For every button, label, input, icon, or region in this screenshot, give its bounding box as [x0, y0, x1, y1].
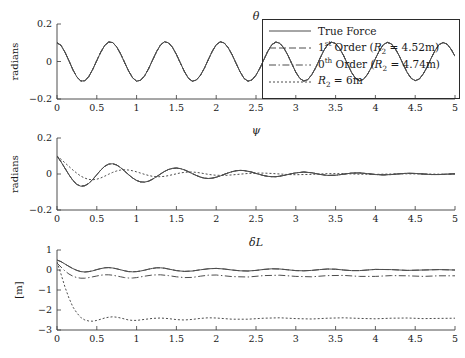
legend: True Force 1st Order (R2 = 4.52m) 0th Or…: [262, 19, 460, 99]
y-tick-label: 0: [46, 168, 52, 179]
x-tick-label: 5: [452, 333, 458, 344]
subplot-delta-l: 00.511.522.533.544.55−3−2−101δL[m]: [0, 230, 465, 358]
x-tick-label: 2: [213, 333, 219, 344]
y-tick-label: −3: [38, 324, 52, 335]
y-tick-label: 0.2: [37, 18, 52, 29]
x-tick-label: 0.5: [89, 213, 104, 224]
legend-item-r2-6m: R2 = 6m: [267, 73, 455, 90]
legend-sample-dashed: [267, 42, 313, 54]
x-tick-label: 4: [372, 213, 378, 224]
x-tick-label: 2.5: [248, 213, 263, 224]
x-tick-label: 3.5: [328, 333, 343, 344]
y-tick-label: 0.2: [37, 132, 52, 143]
x-tick-label: 4.5: [408, 333, 423, 344]
legend-label-r2-6m: R2 = 6m: [318, 74, 363, 89]
x-tick-label: 1.5: [169, 213, 184, 224]
y-tick-label: 0: [46, 264, 52, 275]
legend-label-zeroth-order: 0th Order (R2 = 4.74m): [318, 56, 440, 73]
x-tick-label: 3: [293, 102, 299, 113]
legend-label-first-order: 1st Order (R2 = 4.52m): [318, 39, 439, 56]
y-tick-label: −0.2: [29, 204, 52, 215]
y-axis-label: radians: [9, 155, 20, 193]
legend-item-true-force: True Force: [267, 22, 455, 39]
x-tick-label: 1: [134, 333, 140, 344]
x-tick-label: 3: [293, 333, 299, 344]
x-tick-label: 5: [452, 102, 458, 113]
legend-sample-solid: [267, 25, 313, 37]
legend-label-true-force: True Force: [318, 25, 376, 37]
x-tick-label: 4.5: [408, 213, 423, 224]
delta-l-plot-svg: 00.511.522.533.544.55−3−2−101δL[m]: [0, 230, 465, 358]
y-tick-label: 1: [46, 244, 52, 255]
y-tick-label: 0: [46, 56, 52, 67]
x-tick-label: 1: [134, 102, 140, 113]
x-tick-label: 2: [213, 102, 219, 113]
x-tick-label: 2: [213, 213, 219, 224]
series-line: [57, 260, 455, 272]
x-tick-label: 4: [372, 333, 378, 344]
x-tick-label: 0: [54, 333, 60, 344]
x-tick-label: 0.5: [89, 102, 104, 113]
subplot-title: θ: [253, 10, 260, 23]
subplot-title: δL: [249, 236, 263, 249]
x-tick-label: 3.5: [328, 213, 343, 224]
legend-item-zeroth-order: 0th Order (R2 = 4.74m): [267, 56, 455, 73]
subplot-psi: 00.511.522.533.544.55−0.200.2ψradians: [0, 118, 465, 236]
x-tick-label: 0: [54, 213, 60, 224]
x-tick-label: 1.5: [169, 333, 184, 344]
x-tick-label: 0: [54, 102, 60, 113]
subplot-title: ψ: [252, 124, 261, 137]
y-tick-label: −1: [38, 284, 52, 295]
series-line: [57, 156, 455, 180]
legend-sample-dashdot: [267, 59, 313, 71]
x-tick-label: 2.5: [248, 333, 263, 344]
x-tick-label: 5: [452, 213, 458, 224]
x-tick-label: 2.5: [248, 102, 263, 113]
legend-sample-dotted: [267, 76, 313, 88]
legend-item-first-order: 1st Order (R2 = 4.52m): [267, 39, 455, 56]
x-tick-label: 4.5: [408, 102, 423, 113]
x-tick-label: 0.5: [89, 333, 104, 344]
x-tick-label: 3: [293, 213, 299, 224]
x-tick-label: 1: [134, 213, 140, 224]
x-tick-label: 3.5: [328, 102, 343, 113]
y-axis-label: [m]: [13, 281, 24, 298]
y-tick-label: −2: [38, 304, 52, 315]
figure-container: 00.511.522.533.544.55−0.200.2θradians 00…: [0, 0, 465, 358]
y-axis-label: radians: [9, 43, 20, 81]
x-tick-label: 1.5: [169, 102, 184, 113]
y-tick-label: −0.2: [29, 93, 52, 104]
x-tick-label: 4: [372, 102, 378, 113]
psi-plot-svg: 00.511.522.533.544.55−0.200.2ψradians: [0, 118, 465, 236]
